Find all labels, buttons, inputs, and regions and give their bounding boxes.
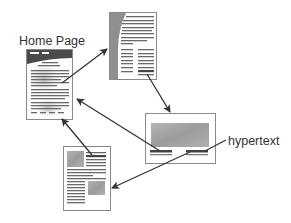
home-page-label: Home Page (19, 35, 85, 48)
arrow-page-a-to-page-b (147, 74, 170, 112)
hypertext-link-bar-left (150, 150, 172, 153)
linked-page-c (64, 147, 111, 211)
home-page-document (27, 50, 73, 120)
hypertext-label: hypertext (228, 135, 279, 148)
linked-page-a (110, 13, 157, 80)
